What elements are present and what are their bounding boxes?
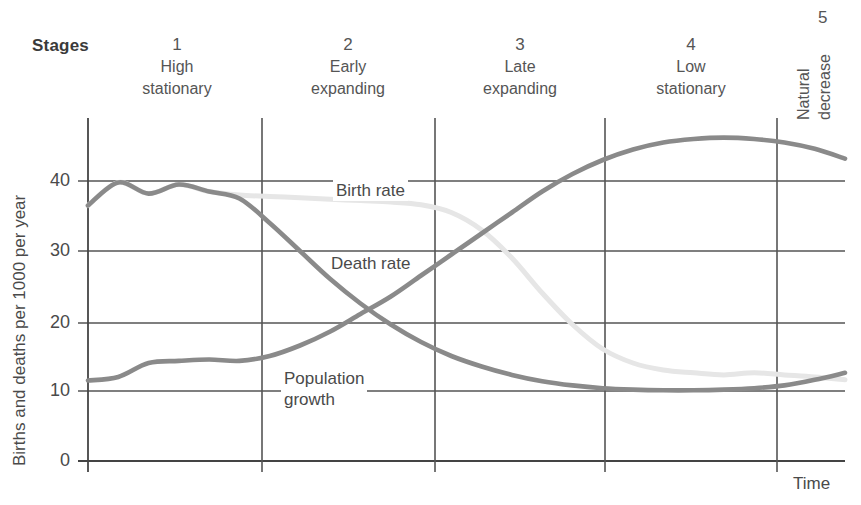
birth-rate-label: Birth rate [333,180,408,201]
population-growth-curve [88,138,845,381]
plot-area [0,0,861,505]
x-axis-title: Time [793,474,830,494]
birth-rate-curve [88,182,845,380]
population-growth-label: Population growth [281,368,367,411]
demographic-transition-chart: Stages 1 High stationary 2 Early expandi… [0,0,861,505]
population-growth-label-line2: growth [284,390,335,409]
death-rate-label: Death rate [328,253,413,274]
stage-divider-lines [262,118,777,472]
grid-lines [78,118,845,472]
population-growth-label-line1: Population [284,369,364,388]
